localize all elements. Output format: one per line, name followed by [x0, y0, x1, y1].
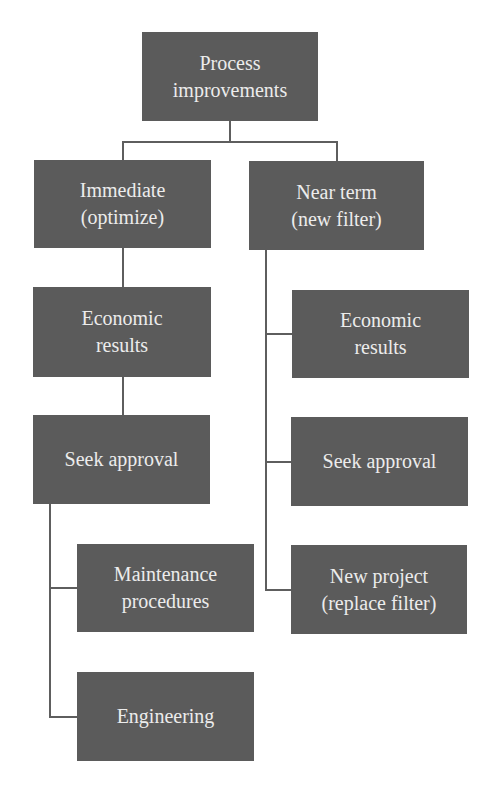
- node-process-improvements: Process improvements: [142, 32, 318, 121]
- connector-right-spine: [265, 250, 267, 590]
- connector-to-new-project: [265, 589, 291, 591]
- node-label: Process improvements: [173, 50, 287, 104]
- process-improvements-diagram: Process improvements Immediate (optimize…: [0, 0, 494, 787]
- node-near-term-new-filter: Near term (new filter): [249, 161, 424, 250]
- connector-to-maintenance: [49, 587, 77, 589]
- node-seek-approval-left: Seek approval: [33, 415, 210, 504]
- node-label: Economic results: [81, 305, 162, 359]
- node-label: New project (replace filter): [322, 563, 437, 617]
- connector-to-economic-right: [265, 333, 292, 335]
- node-label: Maintenance procedures: [114, 561, 217, 615]
- connector-left-lower-spine: [49, 504, 51, 717]
- connector-to-immediate: [122, 141, 124, 160]
- node-label: Immediate (optimize): [80, 177, 166, 231]
- node-economic-results-right: Economic results: [292, 290, 469, 378]
- connector-root-down: [229, 121, 231, 142]
- connector-to-engineering: [49, 716, 77, 718]
- node-maintenance-procedures: Maintenance procedures: [77, 544, 254, 632]
- node-label: Engineering: [117, 703, 215, 730]
- node-label: Near term (new filter): [291, 179, 382, 233]
- node-seek-approval-right: Seek approval: [291, 417, 468, 506]
- node-engineering: Engineering: [77, 672, 254, 761]
- connector-immediate-to-economic: [122, 248, 124, 287]
- node-label: Seek approval: [65, 446, 179, 473]
- node-immediate-optimize: Immediate (optimize): [34, 160, 211, 248]
- node-label: Seek approval: [323, 448, 437, 475]
- connector-root-bar: [122, 141, 338, 143]
- connector-to-near-term: [336, 141, 338, 161]
- node-new-project-replace-filter: New project (replace filter): [291, 545, 467, 634]
- node-economic-results-left: Economic results: [33, 287, 211, 377]
- connector-economic-to-approval-left: [122, 377, 124, 415]
- node-label: Economic results: [340, 307, 421, 361]
- connector-to-approval-right: [265, 461, 291, 463]
